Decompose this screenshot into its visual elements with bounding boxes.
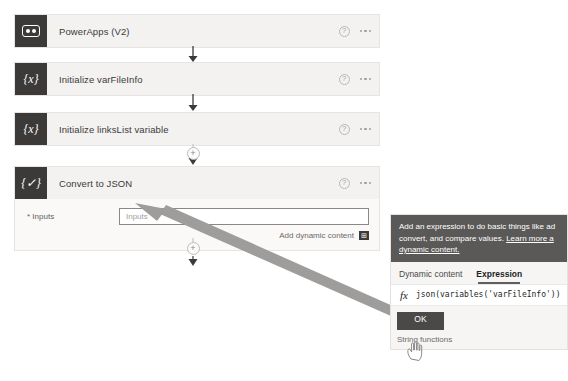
hand-cursor-icon (406, 340, 426, 362)
fx-icon: fx (400, 289, 408, 301)
expression-input[interactable]: json(variables('varFileInfo')) (416, 290, 561, 299)
tab-expression[interactable]: Expression (476, 269, 522, 284)
ok-button[interactable]: OK (397, 312, 444, 330)
tab-dynamic-content[interactable]: Dynamic content (399, 269, 462, 284)
popup-actions: OK (391, 306, 567, 330)
expression-popup: Add an expression to do basic things lik… (390, 214, 568, 350)
expression-input-row[interactable]: fx json(variables('varFileInfo')) (391, 284, 567, 306)
popup-tabs: Dynamic content Expression (391, 262, 567, 284)
flow-designer-canvas: PowerApps (V2) ? {x} Initialize varFileI… (0, 0, 568, 381)
popup-header: Add an expression to do basic things lik… (391, 215, 567, 262)
